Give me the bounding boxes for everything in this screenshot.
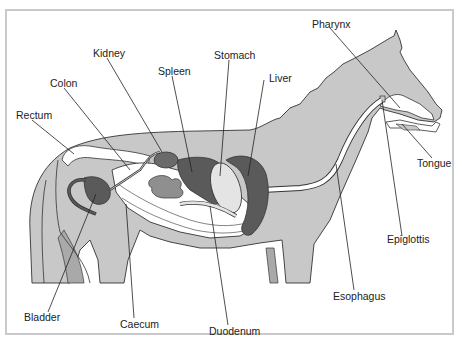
inner-fore-leg — [266, 248, 278, 283]
label-stomach: Stomach — [214, 50, 255, 61]
label-colon: Colon — [50, 78, 77, 89]
label-bladder: Bladder — [24, 312, 60, 323]
label-tongue: Tongue — [417, 158, 451, 169]
label-duodenum: Duodenum — [209, 326, 260, 337]
label-epiglottis: Epiglottis — [387, 234, 430, 245]
kidney-shape — [154, 152, 178, 168]
label-kidney: Kidney — [93, 48, 125, 59]
label-spleen: Spleen — [158, 66, 191, 77]
label-rectum: Rectum — [16, 110, 52, 121]
label-liver: Liver — [269, 73, 292, 84]
label-pharynx: Pharynx — [312, 19, 351, 30]
label-caecum: Caecum — [120, 319, 159, 330]
label-esophagus: Esophagus — [333, 291, 386, 302]
